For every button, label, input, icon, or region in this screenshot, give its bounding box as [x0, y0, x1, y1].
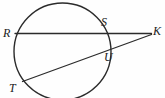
point-label-t: T [9, 82, 16, 94]
point-label-s: S [101, 16, 107, 28]
geometry-canvas [0, 0, 165, 98]
secant-line-tk [23, 35, 152, 82]
geometry-figure: R S K U T [0, 0, 165, 98]
point-label-u: U [104, 51, 113, 63]
point-label-k: K [153, 25, 161, 37]
point-label-r: R [3, 27, 10, 39]
main-circle [14, 3, 111, 98]
